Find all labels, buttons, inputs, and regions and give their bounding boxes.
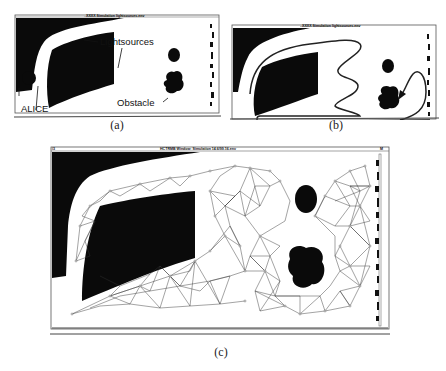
caption-c: (c) <box>201 345 241 360</box>
alice-robot-icon <box>22 71 36 85</box>
panel-b: XXXX Simulation lightsources.env <box>230 12 440 120</box>
panel-b-screenshot: XXXX Simulation lightsources.env <box>230 12 440 120</box>
panel-a-screenshot: XXXX Simulation lightsources.env Lightso… <box>14 12 222 120</box>
panel-a: XXXX Simulation lightsources.env Lightso… <box>14 12 222 120</box>
panel-c-screenshot: /3 HCTRMB Window: Simulation 14.6/99.16.… <box>50 146 390 336</box>
irregular-obstacle <box>378 86 399 109</box>
window-title: XXXX Simulation lightsources.env <box>86 14 145 18</box>
obstacle-label: Obstacle <box>117 97 155 108</box>
small-obstacle <box>295 185 317 213</box>
caption-b: (b) <box>316 118 356 133</box>
window-corner-left: /3 <box>52 147 55 151</box>
small-obstacle <box>382 59 394 73</box>
lightsources-label: Lightsources <box>100 36 154 47</box>
caption-a: (a) <box>97 118 137 133</box>
irregular-obstacle <box>288 246 324 288</box>
alice-label: ALICE <box>21 103 48 114</box>
small-obstacle <box>168 48 180 62</box>
window-title: HCTRMB Window: Simulation 14.6/99.16.env <box>160 147 236 151</box>
panel-c: /3 HCTRMB Window: Simulation 14.6/99.16.… <box>50 146 390 336</box>
window-title: XXXX Simulation lightsources.env <box>302 24 361 28</box>
window-corner-right: M <box>380 147 383 151</box>
